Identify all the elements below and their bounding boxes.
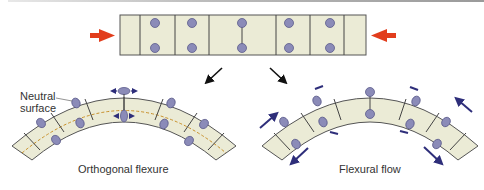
fold-diagram xyxy=(0,0,484,190)
compression-arrow-right-icon xyxy=(371,29,396,42)
undeformed-layer xyxy=(120,15,366,55)
orthogonal-flexure-caption: Orthogonal flexure xyxy=(78,163,169,175)
flexural-flow-caption: Flexural flow xyxy=(339,163,401,175)
flexural-flow-fold xyxy=(260,86,478,162)
neutral-surface-label: Neutral surface xyxy=(20,90,66,114)
pointer-arrow-left-icon xyxy=(208,68,222,81)
compression-arrow-left-icon xyxy=(90,29,115,42)
neutral-label-line1: Neutral xyxy=(20,90,66,102)
neutral-label-line2: surface xyxy=(20,102,66,114)
pointer-arrow-right-icon xyxy=(270,68,284,81)
